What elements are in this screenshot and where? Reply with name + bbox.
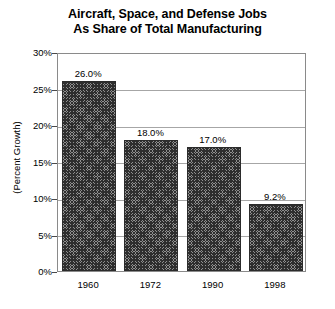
bar-value-label: 26.0% (58, 68, 118, 79)
bar (62, 81, 116, 271)
y-axis-tick-label: 25% (6, 85, 52, 95)
chart-title-line-1: Aircraft, Space, and Defense Jobs (0, 7, 335, 22)
y-axis-tick-label: 10% (6, 194, 52, 204)
bar (124, 140, 178, 271)
y-axis-tick-label: 30% (6, 48, 52, 58)
bar (187, 147, 241, 271)
x-axis-tick-label: 1960 (58, 279, 118, 290)
bar-value-label: 17.0% (183, 134, 243, 145)
x-axis-tick-label: 1972 (120, 279, 180, 290)
y-axis-tick-label: 15% (6, 158, 52, 168)
y-axis-tick-label: 0% (6, 267, 52, 277)
chart-title: Aircraft, Space, and Defense Jobs As Sha… (0, 7, 335, 37)
y-axis-tick-label: 5% (6, 231, 52, 241)
bar-value-label: 9.2% (245, 191, 305, 202)
chart-title-line-2: As Share of Total Manufacturing (0, 22, 335, 37)
chart-container: Aircraft, Space, and Defense Jobs As Sha… (0, 0, 335, 309)
x-axis-tick-label: 1998 (245, 279, 305, 290)
bar-value-label: 18.0% (120, 127, 180, 138)
y-axis-tick-label: 20% (6, 121, 52, 131)
y-axis-tick-mark (52, 272, 57, 273)
plot-area (57, 53, 306, 272)
bar (249, 204, 303, 271)
x-axis-tick-label: 1990 (183, 279, 243, 290)
